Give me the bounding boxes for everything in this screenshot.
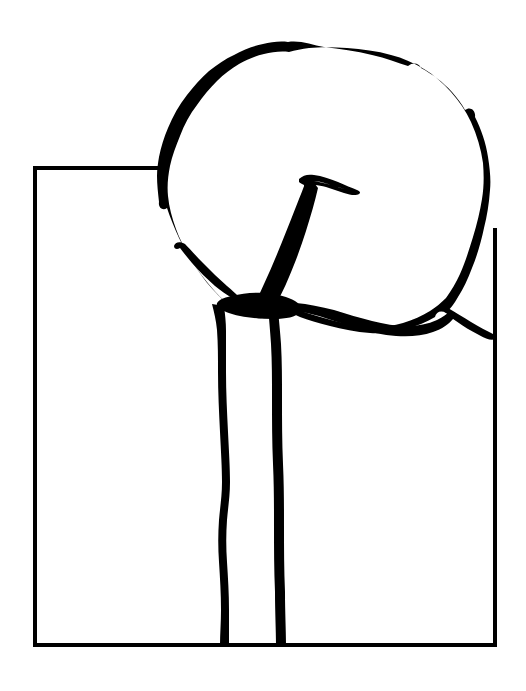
line-drawing (0, 0, 526, 691)
drawing-canvas: Tree line drawing over rectangular frame… (0, 0, 526, 691)
paper-background (0, 0, 526, 691)
